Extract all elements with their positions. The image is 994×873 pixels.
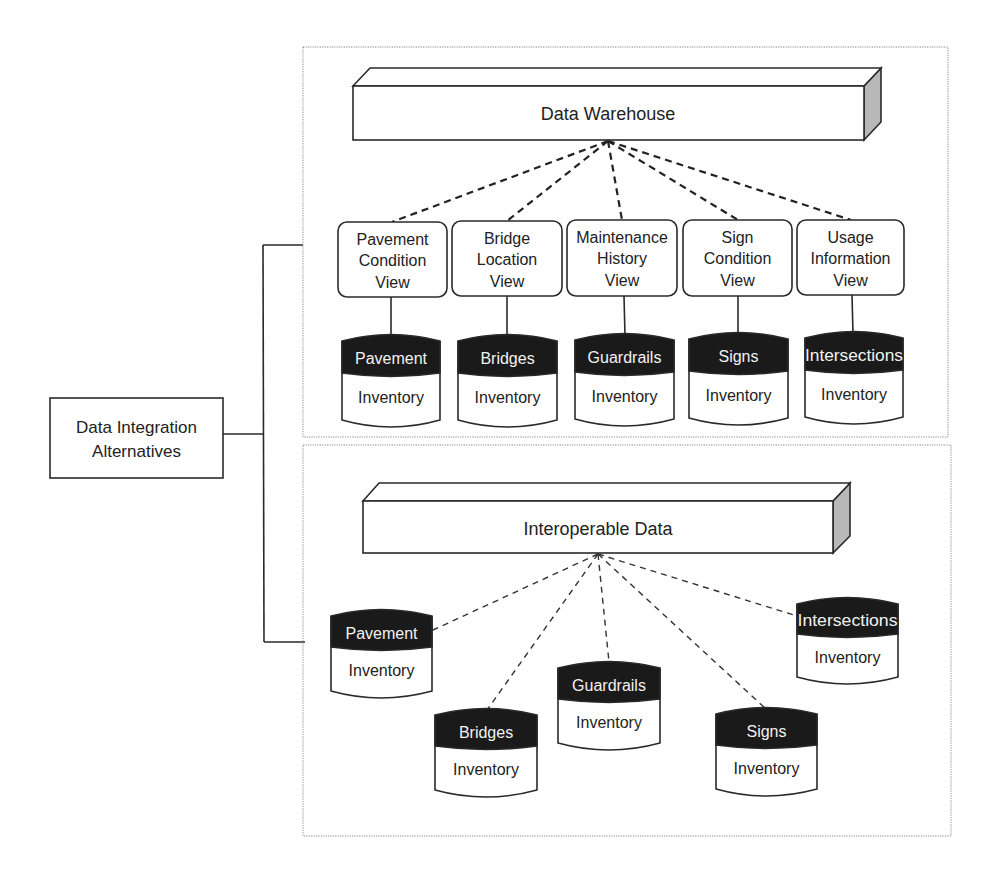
svg-text:Information: Information [810,250,890,267]
db-name: Pavement [355,350,428,367]
db-name: Signs [746,723,786,740]
db-name: Intersections [805,347,903,364]
view-pavement-condition: Pavement Condition View [338,222,447,297]
db-type: Inventory [358,389,424,406]
bracket-connector [223,245,305,642]
interop-db-bridges: Bridges Inventory [435,709,537,798]
db-name: Guardrails [572,677,646,694]
bar-top-face [353,68,881,86]
data-warehouse-bar: Data Warehouse [353,68,881,140]
svg-text:Pavement: Pavement [356,231,429,248]
db-type: Inventory [734,760,800,777]
svg-text:Condition: Condition [359,252,427,269]
svg-text:View: View [833,272,868,289]
interoperable-data-bar: Interoperable Data [363,483,850,553]
view-bridge-location: Bridge Location View [452,221,562,296]
warehouse-db-guardrails: Guardrails Inventory [575,334,674,427]
db-type: Inventory [592,388,658,405]
db-type: Inventory [349,662,415,679]
data-integration-diagram: Data Integration Alternatives Data Wareh… [0,0,994,873]
svg-text:Location: Location [477,251,538,268]
db-type: Inventory [576,714,642,731]
interoperable-section: Interoperable Data Pavement Inventory Br… [303,445,951,836]
interoperable-data-title: Interoperable Data [523,519,673,539]
db-type: Inventory [821,386,887,403]
warehouse-db-signs: Signs Inventory [689,333,788,426]
svg-text:Usage: Usage [827,229,873,246]
warehouse-db-intersections: Intersections Inventory [805,332,903,425]
view-usage-information: Usage Information View [797,220,904,295]
interop-db-signs: Signs Inventory [716,708,817,797]
svg-text:View: View [605,272,640,289]
warehouse-db-pavement: Pavement Inventory [342,335,440,428]
root-node: Data Integration Alternatives [50,398,223,478]
db-type: Inventory [706,387,772,404]
svg-text:View: View [720,272,755,289]
db-name: Guardrails [588,349,662,366]
root-label-line2: Alternatives [92,442,181,461]
svg-text:Bridge: Bridge [484,230,530,247]
bar-top-face [363,483,850,501]
db-type: Inventory [475,389,541,406]
db-name: Bridges [480,350,534,367]
data-warehouse-title: Data Warehouse [541,104,675,124]
warehouse-dashed-links [392,141,851,222]
view-to-database-links [391,295,853,337]
interop-db-pavement: Pavement Inventory [331,610,432,699]
interop-db-guardrails: Guardrails Inventory [558,662,660,751]
view-maintenance-history: Maintenance History View [567,220,677,296]
svg-text:History: History [597,250,647,267]
root-box [50,398,223,478]
svg-text:View: View [375,274,410,291]
view-sign-condition: Sign Condition View [683,220,792,296]
svg-text:Condition: Condition [704,250,772,267]
warehouse-db-bridges: Bridges Inventory [458,335,557,428]
root-label-line1: Data Integration [76,418,197,437]
db-type: Inventory [815,649,881,666]
svg-text:Maintenance: Maintenance [576,229,668,246]
db-name: Bridges [459,724,513,741]
data-warehouse-section: Data Warehouse Pavement Condition View B… [303,47,948,437]
db-name: Pavement [345,625,418,642]
db-type: Inventory [453,761,519,778]
db-name: Signs [718,348,758,365]
interop-db-intersections: Intersections Inventory [797,598,898,685]
svg-text:View: View [490,273,525,290]
svg-text:Sign: Sign [721,229,753,246]
db-name: Intersections [798,612,898,629]
